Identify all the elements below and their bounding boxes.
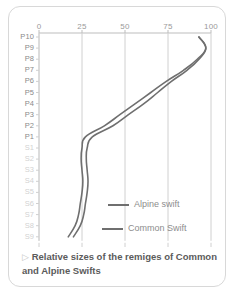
- y-tick-P8: P8: [8, 54, 34, 63]
- y-tick-S1: S1: [8, 143, 34, 152]
- plot-area: 0255075100 P10P9P8P7P6P5P4P3P2P1S1S2S3S4…: [9, 7, 227, 247]
- y-tick-S9: S9: [8, 232, 34, 241]
- figure-caption: ▷ Relative sizes of the remiges of Commo…: [22, 250, 218, 277]
- y-tick-P1: P1: [8, 132, 34, 141]
- legend-swatch-2: [102, 228, 123, 230]
- y-tick-S7: S7: [8, 210, 34, 219]
- chart-card: 0255075100 P10P9P8P7P6P5P4P3P2P1S1S2S3S4…: [8, 6, 226, 287]
- y-tick-P5: P5: [8, 88, 34, 97]
- y-tick-S2: S2: [8, 154, 34, 163]
- y-tick-P2: P2: [8, 121, 34, 130]
- x-tick-0: 0: [27, 22, 51, 31]
- y-tick-P6: P6: [8, 76, 34, 85]
- y-tick-P7: P7: [8, 65, 34, 74]
- x-tick-25: 25: [70, 22, 94, 31]
- x-tick-50: 50: [113, 22, 137, 31]
- chart-svg: [9, 7, 227, 247]
- legend-label-1: Alpine swift: [134, 199, 180, 209]
- x-tick-75: 75: [156, 22, 180, 31]
- y-tick-P10: P10: [8, 32, 34, 41]
- x-tick-100: 100: [199, 22, 223, 31]
- y-tick-S4: S4: [8, 176, 34, 185]
- legend-label-2: Common Swift: [128, 223, 187, 233]
- y-tick-P4: P4: [8, 99, 34, 108]
- y-tick-P9: P9: [8, 43, 34, 52]
- y-tick-S6: S6: [8, 199, 34, 208]
- y-tick-S5: S5: [8, 187, 34, 196]
- y-tick-S8: S8: [8, 221, 34, 230]
- caption-line-1: Relative sizes of the remiges of: [32, 251, 174, 262]
- caption-marker-icon: ▷: [22, 252, 29, 262]
- y-tick-S3: S3: [8, 165, 34, 174]
- y-tick-P3: P3: [8, 110, 34, 119]
- legend-swatch-1: [108, 204, 129, 206]
